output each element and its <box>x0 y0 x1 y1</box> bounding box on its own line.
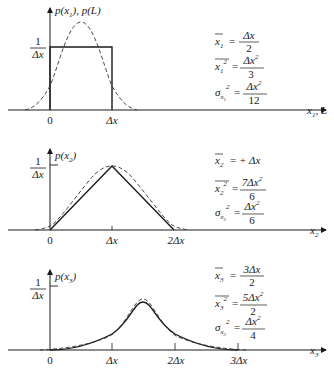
gaussian-approximation-curve <box>35 166 189 230</box>
svg-text:Δx: Δx <box>105 234 117 246</box>
svg-text:σx32: σx32 <box>215 318 230 337</box>
svg-text:2: 2 <box>246 42 252 54</box>
svg-text:x2: x2 <box>214 154 224 169</box>
svg-text:Δx: Δx <box>242 29 254 41</box>
y-tick-denominator: Δx <box>31 48 43 60</box>
svg-text:σx22: σx22 <box>215 203 230 222</box>
mean-square-lhs: x12 <box>214 58 227 75</box>
svg-text:2Δx: 2Δx <box>168 234 185 246</box>
panel-3: 1 Δx p(x3) 0 Δx 2Δx 3Δx x3 x3 = 3Δx 2 x3… <box>8 263 326 366</box>
svg-text:7Δx2: 7Δx2 <box>242 175 263 188</box>
svg-text:=: = <box>230 269 236 281</box>
x-tick-0: 0 <box>47 114 53 126</box>
svg-text:Δx2: Δx2 <box>243 53 259 66</box>
equations-panel-3: x3 = 3Δx 2 x32 = 5Δx2 2 σx32 = Δx2 4 <box>214 263 267 341</box>
svg-text:1: 1 <box>35 276 41 288</box>
svg-text:12: 12 <box>249 94 260 106</box>
svg-text:Δx: Δx <box>105 354 117 366</box>
panel-1: 1 Δx p(x1), p(L) 0 Δx x1, L x1 = Δx 2 x1… <box>8 4 327 126</box>
variance-lhs: σx12 <box>215 83 230 102</box>
svg-text:Δx: Δx <box>31 168 43 180</box>
svg-text:3Δx: 3Δx <box>230 354 248 366</box>
mean-lhs: x1 <box>214 35 223 50</box>
svg-text:=: = <box>229 35 235 47</box>
svg-text:3: 3 <box>248 68 254 80</box>
svg-text:6: 6 <box>249 214 255 226</box>
equations-panel-1: x1 = Δx 2 x12 = Δx2 3 σx12 = Δx2 12 <box>214 29 267 106</box>
gaussian-approximation-curve <box>25 22 137 110</box>
x-tick-dx: Δx <box>105 114 117 126</box>
svg-text:0: 0 <box>47 354 53 366</box>
svg-text:+ Δx: + Δx <box>239 154 260 166</box>
svg-text:x3: x3 <box>214 269 224 284</box>
svg-text:Δx: Δx <box>31 289 43 301</box>
quadratic-spline-distribution-curve <box>50 302 238 350</box>
svg-text:0: 0 <box>47 234 53 246</box>
svg-text:=: = <box>234 206 240 218</box>
uniform-distribution-curve <box>50 47 112 110</box>
svg-text:2Δx: 2Δx <box>168 354 185 366</box>
svg-text:=: = <box>234 321 240 333</box>
x-axis-label: x2 <box>309 224 319 239</box>
svg-text:2: 2 <box>249 276 255 288</box>
svg-text:5Δx2: 5Δx2 <box>243 290 264 303</box>
x-axis-label: x1, L <box>306 104 327 119</box>
svg-text:1: 1 <box>35 155 41 167</box>
svg-text:Δx2: Δx2 <box>245 314 261 327</box>
equations-panel-2: x2 = + Δx x22 = 7Δx2 6 σx22 = Δx2 6 <box>214 154 266 226</box>
y-axis-label: p(x1), p(L) <box>54 4 101 19</box>
svg-text:Δx2: Δx2 <box>246 79 262 92</box>
svg-text:=: = <box>232 60 238 72</box>
svg-text:x22: x22 <box>214 180 227 197</box>
svg-text:Δx2: Δx2 <box>244 199 260 212</box>
svg-text:=: = <box>230 154 236 166</box>
svg-text:x32: x32 <box>214 295 227 312</box>
diagram-canvas: 1 Δx p(x1), p(L) 0 Δx x1, L x1 = Δx 2 x1… <box>0 0 334 376</box>
svg-text:=: = <box>232 182 238 194</box>
y-tick-numerator: 1 <box>35 35 41 47</box>
svg-text:=: = <box>234 86 240 98</box>
y-axis-label: p(x2) <box>54 149 77 164</box>
svg-text:4: 4 <box>250 329 256 341</box>
svg-text:=: = <box>232 297 238 309</box>
panel-2: 1 Δx p(x2) 0 Δx 2Δx x2 x2 = + Δx x22 = 7… <box>8 149 326 246</box>
x-axis-label: x3 <box>309 344 319 359</box>
y-axis-label: p(x3) <box>54 270 77 285</box>
svg-text:3Δx: 3Δx <box>243 263 261 275</box>
triangular-distribution-curve <box>50 166 174 230</box>
